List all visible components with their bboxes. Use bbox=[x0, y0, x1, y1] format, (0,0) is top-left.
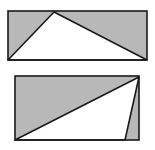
top-figure bbox=[8, 11, 147, 60]
bottom-figure bbox=[15, 76, 139, 140]
diagram-canvas bbox=[0, 0, 155, 150]
